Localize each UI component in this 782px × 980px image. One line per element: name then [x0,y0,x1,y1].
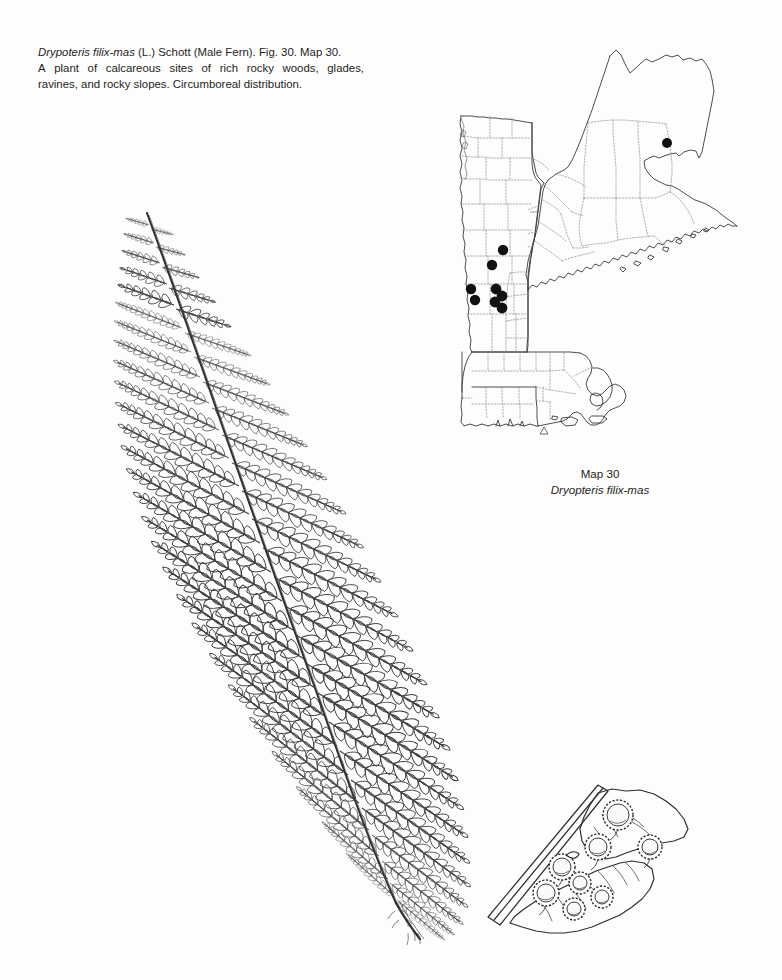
caption-word: rocky [247,60,274,76]
county-line [640,198,648,236]
sorus [563,898,585,920]
caption-word: plant [54,60,79,76]
county-line [588,120,666,124]
county-line [638,122,640,198]
county-line [613,120,616,198]
coastal-island [634,261,641,266]
caption-word: woods, [283,60,319,76]
sorus [569,872,591,894]
sorus [603,800,633,840]
rachis-shadow [149,215,398,905]
coastal-island [676,239,682,244]
caption-word: glades, [327,60,364,76]
county-line [666,124,672,192]
stipe [388,903,424,945]
county-line [654,236,666,246]
pinnae-left [110,216,398,901]
caption-line-1: Drypoteris filix-mas (L.) Schott (Male F… [38,44,364,60]
coastal-island [663,247,669,252]
plate-page: Drypoteris filix-mas (L.) Schott (Male F… [0,0,782,980]
caption-word: A [38,60,46,76]
caption-word: sites [169,60,192,76]
caption-word: of [88,60,98,76]
county-line [460,178,532,180]
state-outline-maine [610,50,737,226]
caption-line-2: A plant of calcareous sites of rich rock… [38,60,364,76]
county-line [616,198,618,240]
sorus [591,886,613,908]
sorus [585,834,611,870]
county-line [670,192,694,223]
state-outline-vermont [461,116,532,123]
species-name: Drypoteris filix-mas [38,46,135,58]
caption-line-3: ravines, and rocky slopes. Circumboreal … [38,76,364,92]
caption-block: Drypoteris filix-mas (L.) Schott (Male F… [38,44,364,93]
caption-word: of [202,60,212,76]
rachis [147,213,396,903]
caption-line-1-rest: (L.) Schott (Male Fern). Fig. 30. Map 30… [138,46,341,58]
occurrence-dot [662,138,672,148]
sorus-detail-illustration [470,775,720,940]
coastal-island [691,234,696,238]
sori-group [533,800,662,920]
caption-word: rich [220,60,238,76]
county-line [462,156,532,158]
coastal-island [648,255,654,260]
pinnae-right [150,226,476,943]
coastal-island [620,267,626,272]
county-line [461,136,532,138]
caption-word: calcareous [106,60,161,76]
sorus [533,880,559,915]
